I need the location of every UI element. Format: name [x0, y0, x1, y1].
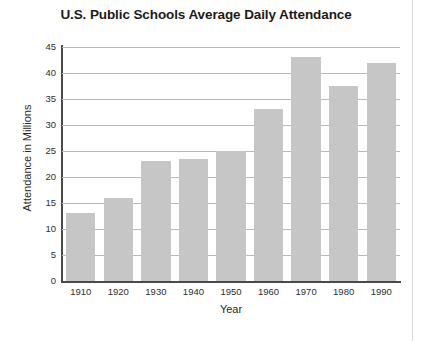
y-axis-tick-label: 30	[30, 120, 56, 130]
bar	[66, 213, 95, 281]
x-axis-tick-label: 1950	[212, 286, 250, 297]
y-axis-tick-label: 25	[30, 146, 56, 156]
x-axis-tick-label: 1910	[62, 286, 100, 297]
bar	[216, 151, 245, 281]
y-axis-tick-label: 40	[30, 68, 56, 78]
x-axis-tick-label: 1930	[137, 286, 175, 297]
chart-title: U.S. Public Schools Average Daily Attend…	[0, 7, 412, 22]
x-axis-tick-label: 1980	[325, 286, 363, 297]
x-axis-tick-label: 1940	[175, 286, 213, 297]
chart-page: U.S. Public Schools Average Daily Attend…	[0, 0, 426, 341]
bar	[179, 159, 208, 281]
bar	[141, 161, 170, 281]
x-axis-tick-labels: 191019201930194019501960197019801990	[62, 286, 400, 302]
x-axis-tick-label: 1920	[100, 286, 138, 297]
x-axis-title: Year	[62, 303, 400, 315]
x-axis-tick-label: 1960	[250, 286, 288, 297]
bar	[367, 63, 396, 281]
plot-area	[62, 47, 400, 281]
y-axis-tick-label: 5	[30, 250, 56, 260]
page-edge-line	[412, 0, 413, 341]
y-axis-tick-label: 0	[30, 276, 56, 286]
y-axis-tick-label: 20	[30, 172, 56, 182]
y-axis-tick-label: 45	[30, 42, 56, 52]
x-axis-tick-label: 1970	[287, 286, 325, 297]
bar	[329, 86, 358, 281]
y-axis-tick-label: 35	[30, 94, 56, 104]
x-axis-tick-label: 1990	[362, 286, 400, 297]
bar	[104, 198, 133, 281]
x-axis-spine	[61, 281, 401, 283]
bar	[291, 57, 320, 281]
y-axis-tick-labels: 051015202530354045	[26, 0, 56, 341]
y-axis-tick-label: 10	[30, 224, 56, 234]
bar-series	[62, 47, 400, 281]
y-axis-tick-label: 15	[30, 198, 56, 208]
bar	[254, 109, 283, 281]
